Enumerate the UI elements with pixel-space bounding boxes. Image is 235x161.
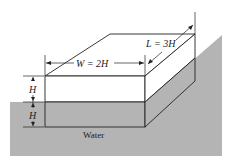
block-front-submerged xyxy=(45,102,145,127)
water-label: Water xyxy=(83,130,104,140)
length-label: L = 3H xyxy=(145,38,176,49)
diagram-canvas: W = 2H L = 3H H H Water xyxy=(0,0,235,161)
block-front-above xyxy=(45,76,145,102)
height-above-label: H xyxy=(28,84,37,95)
height-below-label: H xyxy=(28,110,37,121)
width-label: W = 2H xyxy=(76,58,109,69)
